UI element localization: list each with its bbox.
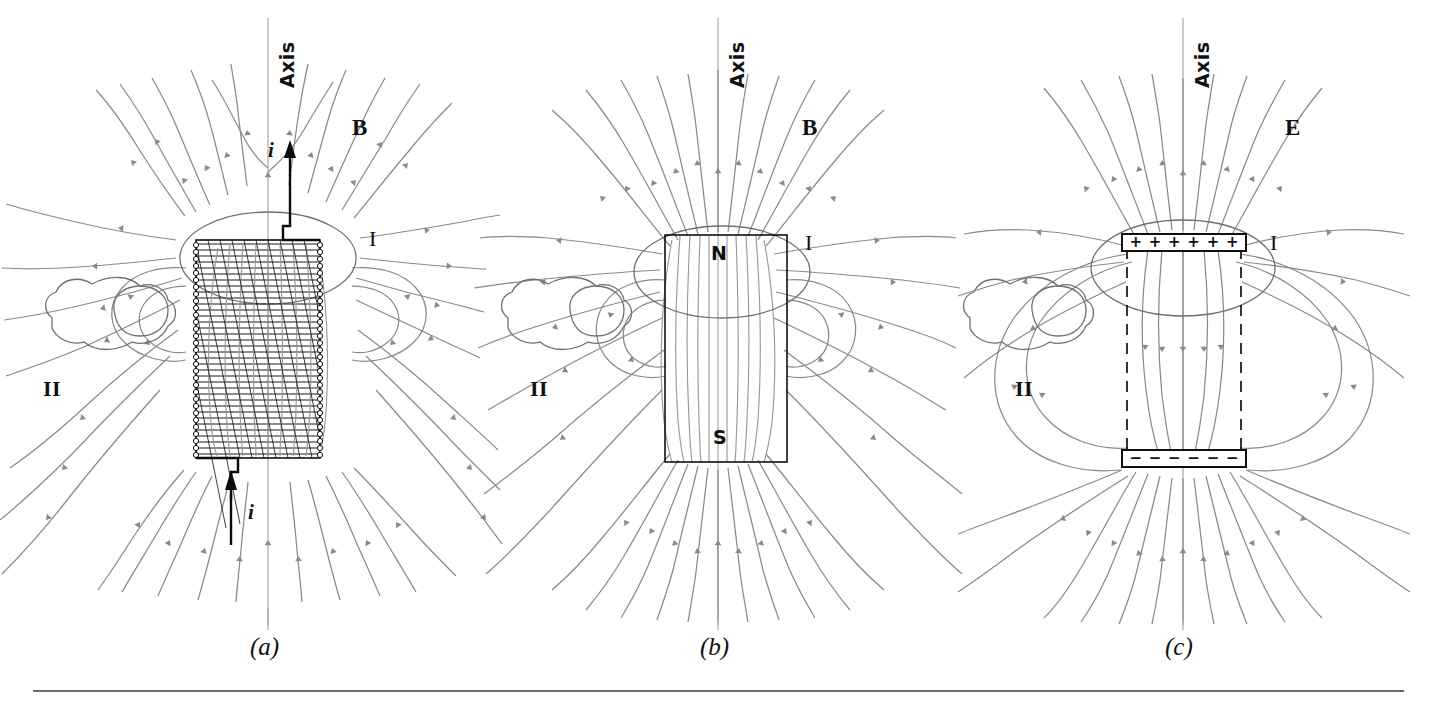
surface-label-II-a: II xyxy=(43,378,61,400)
surface-label-I-b: I xyxy=(805,232,813,254)
field-symbol-c: E xyxy=(1285,116,1300,139)
axis-label-b: Axis xyxy=(728,42,747,88)
plus-sign-4: + xyxy=(1207,235,1220,250)
minus-sign-3: − xyxy=(1187,451,1200,466)
figure-root: Axis B I II i i (a) Axis B I II N S (b) … xyxy=(0,0,1431,708)
minus-sign-1: − xyxy=(1149,451,1162,466)
figure-canvas xyxy=(0,0,1431,708)
gaussian-surface-II-a xyxy=(46,277,176,349)
surface-label-I-c: I xyxy=(1270,232,1278,254)
field-symbol-a: B xyxy=(352,116,367,139)
plus-sign-2: + xyxy=(1168,235,1181,250)
field-symbol-b: B xyxy=(802,116,817,139)
panel-c xyxy=(958,18,1410,625)
minus-sign-2: − xyxy=(1168,451,1181,466)
panel-label-a: (a) xyxy=(250,634,279,659)
solenoid-a xyxy=(193,140,327,545)
minus-sign-5: − xyxy=(1226,451,1239,466)
minus-sign-0: − xyxy=(1129,451,1142,466)
gaussian-surface-II-inner-c xyxy=(1032,286,1086,336)
panel-label-c: (c) xyxy=(1165,634,1193,659)
positive-charge-row: ++++++ xyxy=(1126,236,1242,249)
negative-charge-row: −−−−−− xyxy=(1126,452,1242,465)
pole-label-north: N xyxy=(711,244,727,263)
current-label-top-a: i xyxy=(268,140,274,161)
pole-label-south: S xyxy=(713,428,727,447)
panel-label-b: (b) xyxy=(700,634,729,659)
axis-label-a: Axis xyxy=(278,42,297,88)
plus-sign-1: + xyxy=(1149,235,1162,250)
plus-sign-3: + xyxy=(1187,235,1200,250)
current-label-bottom-a: i xyxy=(248,502,254,523)
coil-rings-a xyxy=(193,242,322,457)
plus-sign-5: + xyxy=(1226,235,1239,250)
panel-a xyxy=(0,18,502,625)
plus-sign-0: + xyxy=(1129,235,1142,250)
gaussian-surface-I-b xyxy=(634,226,810,318)
surface-label-II-c: II xyxy=(1015,378,1033,400)
minus-sign-4: − xyxy=(1207,451,1220,466)
surface-label-I-a: I xyxy=(369,228,377,250)
surface-label-II-b: II xyxy=(530,378,548,400)
axis-label-c: Axis xyxy=(1193,42,1212,88)
panel-b xyxy=(474,18,962,625)
